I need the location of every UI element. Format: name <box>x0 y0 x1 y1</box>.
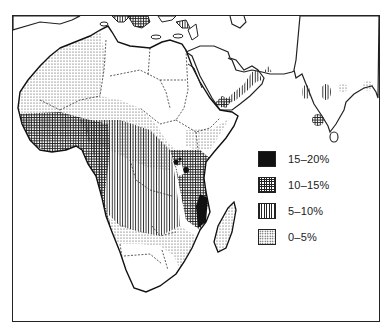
map-legend: 15–20% 10–15% 5–10% 0–5% <box>258 148 368 252</box>
legend-item-10-15: 10–15% <box>258 174 368 196</box>
legend-label: 15–20% <box>288 153 330 165</box>
vertical-lines-swatch-icon <box>258 203 276 219</box>
legend-label: 10–15% <box>288 179 330 191</box>
dots-swatch-icon <box>258 229 276 245</box>
legend-label: 5–10% <box>288 205 323 217</box>
legend-label: 0–5% <box>288 231 317 243</box>
legend-item-15-20: 15–20% <box>258 148 368 170</box>
legend-item-5-10: 5–10% <box>258 200 368 222</box>
india <box>294 16 379 132</box>
europe-coast <box>13 16 80 30</box>
crosshatch-swatch-icon <box>258 177 276 193</box>
legend-item-0-5: 0–5% <box>258 226 368 248</box>
sri-lanka <box>330 132 338 142</box>
madagascar <box>214 202 236 252</box>
solid-black-swatch-icon <box>258 151 276 167</box>
